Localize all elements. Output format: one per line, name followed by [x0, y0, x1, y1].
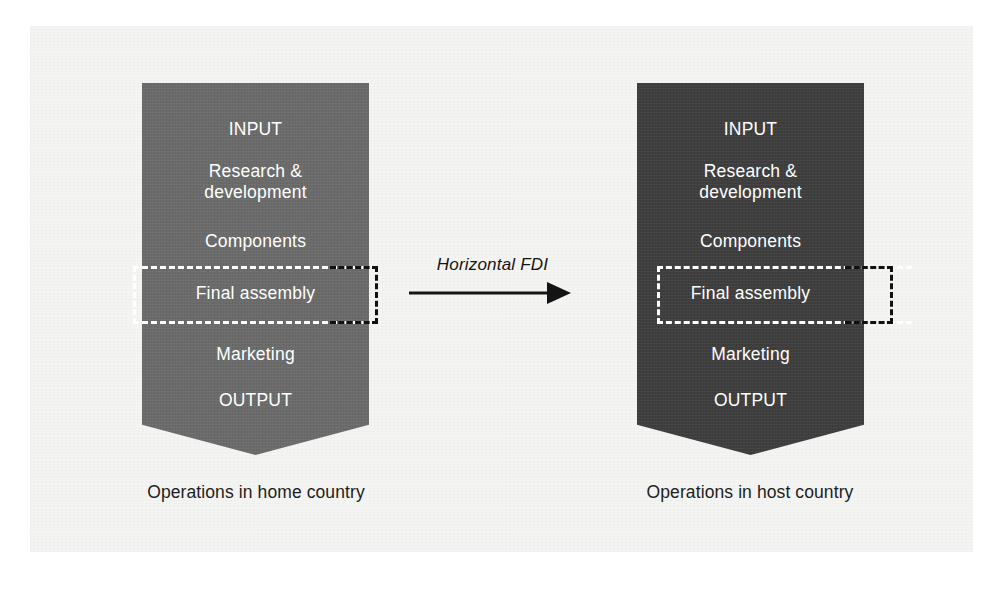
home-row-marketing: Marketing — [142, 344, 369, 365]
host-final-assembly-highlight-outer — [845, 266, 893, 324]
home-country-caption: Operations in home country — [76, 482, 436, 503]
host-country-caption: Operations in host country — [570, 482, 930, 503]
home-final-assembly-highlight-outer — [330, 266, 378, 324]
fdi-diagram: INPUT Research & development Components … — [0, 0, 1003, 602]
horizontal-fdi-arrow-icon — [405, 277, 580, 309]
host-row-output: OUTPUT — [637, 390, 864, 411]
horizontal-fdi-label: Horizontal FDI — [405, 255, 580, 275]
horizontal-fdi-arrow-group: Horizontal FDI — [405, 255, 580, 315]
host-row-components: Components — [637, 231, 864, 252]
home-row-input: INPUT — [142, 119, 369, 140]
host-row-input: INPUT — [637, 119, 864, 140]
home-row-components: Components — [142, 231, 369, 252]
host-row-marketing: Marketing — [637, 344, 864, 365]
home-row-output: OUTPUT — [142, 390, 369, 411]
home-row-research-development: Research & development — [142, 161, 369, 203]
host-row-research-development: Research & development — [637, 161, 864, 203]
